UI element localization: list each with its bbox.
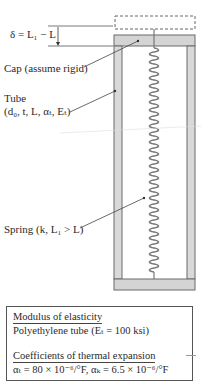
material-properties-box: Modulus of elasticity Polyethylene tube …: [6, 306, 193, 381]
tube-base: [114, 279, 195, 290]
spring-coils: [150, 48, 159, 272]
tube-wall-left: [114, 46, 122, 279]
decorative-dash: [186, 355, 196, 356]
modulus-heading: Modulus of elasticity: [13, 311, 102, 324]
modulus-value: Polyethylene tube (Eₜ = 100 ksi): [13, 325, 149, 337]
dashed-spring-extent-box: [115, 16, 195, 29]
spring-leader: [80, 198, 144, 228]
tube-wall-right: [187, 46, 195, 279]
delta-arrowhead: [56, 42, 60, 46]
tube-label-line2: (d₀, t, L, αₜ, Eₜ): [4, 105, 70, 118]
thermal-heading: Coefficients of thermal expansion: [13, 350, 155, 363]
delta-label: δ = L₁ − L: [10, 28, 56, 41]
thermal-value: αₜ = 80 × 10⁻⁶/°F, αₖ = 6.5 × 10⁻⁶/°F: [13, 364, 168, 376]
spring-label: Spring (k, L₁ > L): [4, 223, 83, 236]
cap-label: Cap (assume rigid): [4, 62, 88, 75]
tube-leader: [70, 91, 115, 112]
tube-spring-diagram: [0, 0, 201, 305]
cap-leader: [84, 41, 138, 67]
tube-label-line1: Tube: [4, 92, 26, 105]
